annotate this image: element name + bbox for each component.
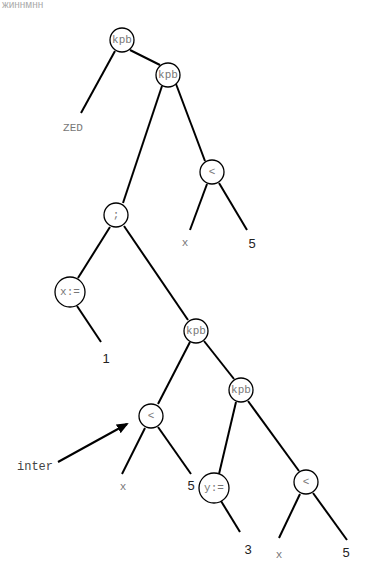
tree-node-assign-x: x:= [55,277,85,307]
leaf-x-2: x [120,481,127,493]
tree-node-kpb-root: kpb [110,28,134,52]
node-label: < [209,166,216,178]
edge-n4-n5 [78,227,110,278]
edges [77,50,347,540]
edge-n4-n6 [124,226,188,320]
leaf-5-1: 5 [248,236,255,251]
edge-n2-n4 [123,86,162,203]
node-label: y:= [204,482,224,494]
tree-node-kpb-2: kpb [156,63,180,87]
node-label: kpb [231,384,251,396]
edge-n6-n8 [204,341,234,379]
leaf-x-3: x [276,549,283,561]
edge-n2-n3 [176,84,205,161]
node-label: kpb [112,34,132,46]
annotation-label: inter [17,460,53,474]
syntax-tree-diagram: inter kpb kpb < ; x:= kpb < kpb y:= < [0,0,367,579]
leaf-3: 3 [244,542,251,557]
edge-n9-l7 [221,501,240,532]
edge-n8-n10 [248,401,299,471]
tree-node-lt-2: < [139,404,163,428]
edge-n1-l1 [81,51,115,113]
leaf-x-1: x [182,237,189,249]
leaf-5-3: 5 [342,545,349,560]
node-label: < [303,476,310,488]
edge-n3-l2 [190,184,207,230]
annotation-inter: inter [17,424,127,474]
edge-n3-l3 [219,183,247,230]
edge-n10-l8 [279,494,300,538]
edge-n1-n2 [130,50,160,65]
leaf-1: 1 [102,351,109,366]
edge-n6-n7 [158,342,190,404]
edge-n10-l9 [313,493,347,540]
tree-node-lt-3: < [294,470,318,494]
node-label: kpb [186,325,206,337]
node-label: ; [113,209,120,221]
tree-node-assign-y: y:= [199,473,229,503]
arrow-icon [58,424,127,462]
edge-n5-l4 [77,306,101,342]
leaf-5-2: 5 [187,478,194,493]
node-label: < [148,410,155,422]
node-label: x:= [60,286,80,298]
tree-node-lt-1: < [200,160,224,184]
edge-n7-l6 [158,427,191,474]
tree-node-seq: ; [104,203,128,227]
edge-n8-n9 [219,402,236,474]
leaf-zed: ZED [63,122,83,134]
tree-node-kpb-3: kpb [184,319,208,343]
edge-n7-l5 [122,428,145,474]
tree-node-kpb-4: kpb [229,378,253,402]
node-label: kpb [158,69,178,81]
